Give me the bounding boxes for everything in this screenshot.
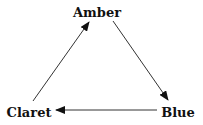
cycle-diagram: Amber Blue Claret — [0, 0, 203, 125]
edge-claret-amber — [33, 22, 89, 101]
node-claret: Claret — [7, 105, 52, 120]
node-blue: Blue — [161, 105, 195, 120]
edge-amber-blue — [113, 21, 168, 100]
node-amber: Amber — [72, 5, 121, 20]
